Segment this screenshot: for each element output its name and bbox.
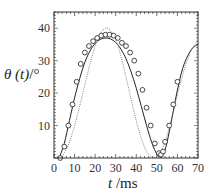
x-tick-label: 20 bbox=[89, 161, 101, 175]
data-point-marker bbox=[128, 50, 133, 55]
data-point-marker bbox=[82, 50, 87, 55]
data-point-marker bbox=[148, 123, 153, 128]
data-markers bbox=[58, 32, 180, 160]
y-tick-labels: 10203040 bbox=[38, 21, 50, 132]
data-point-marker bbox=[132, 58, 137, 63]
y-axis-label: θ (t)/° bbox=[4, 66, 39, 83]
x-tick-label: 60 bbox=[171, 161, 183, 175]
x-tick-label: 40 bbox=[130, 161, 142, 175]
data-point-marker bbox=[163, 139, 168, 144]
y-tick-label: 10 bbox=[38, 119, 50, 133]
x-tick-label: 10 bbox=[69, 161, 81, 175]
y-axis-label-unit: /° bbox=[29, 66, 39, 82]
data-point-marker bbox=[136, 71, 141, 76]
axis-ticks bbox=[54, 12, 198, 158]
dotted-model-line bbox=[60, 28, 198, 158]
data-point-marker bbox=[144, 105, 149, 110]
data-point-marker bbox=[167, 123, 172, 128]
data-point-marker bbox=[152, 141, 157, 146]
plot-lines bbox=[59, 28, 198, 158]
data-point-marker bbox=[74, 79, 79, 84]
data-point-marker bbox=[87, 44, 92, 49]
solid-model-line bbox=[59, 38, 198, 158]
data-point-marker bbox=[70, 102, 75, 107]
y-tick-label: 40 bbox=[38, 21, 50, 35]
x-tick-label: 50 bbox=[151, 161, 163, 175]
data-point-marker bbox=[124, 44, 129, 49]
data-point-marker bbox=[115, 36, 120, 41]
x-tick-label: 30 bbox=[110, 161, 122, 175]
x-tick-label: 70 bbox=[192, 161, 204, 175]
x-tick-labels: 010203040506070 bbox=[51, 161, 204, 175]
data-point-marker bbox=[161, 149, 166, 154]
chart: 010203040506070 10203040 θ (t)/° t /ms bbox=[0, 0, 213, 195]
data-point-marker bbox=[91, 39, 96, 44]
data-point-marker bbox=[119, 40, 124, 45]
data-point-marker bbox=[140, 87, 145, 92]
y-axis-label-var: θ (t) bbox=[4, 66, 29, 83]
data-point-marker bbox=[62, 144, 67, 149]
data-point-marker bbox=[175, 79, 180, 84]
x-axis-label: t /ms bbox=[108, 175, 138, 191]
y-tick-label: 20 bbox=[38, 86, 50, 100]
plot-frame bbox=[54, 12, 198, 158]
data-point-marker bbox=[171, 102, 176, 107]
x-tick-label: 0 bbox=[51, 161, 57, 175]
data-point-marker bbox=[78, 62, 83, 67]
data-point-marker bbox=[66, 123, 71, 128]
x-axis-label-unit: /ms bbox=[112, 175, 138, 191]
y-tick-label: 30 bbox=[38, 54, 50, 68]
